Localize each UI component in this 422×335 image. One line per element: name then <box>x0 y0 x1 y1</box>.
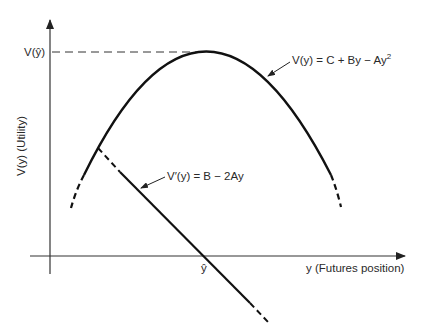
marginal-equation-label: V′(y) = B − 2Ay <box>167 170 244 182</box>
superscript: 2 <box>387 52 392 61</box>
diagram-canvas: V(ŷ) V(y) = C + By − Ay2 V′(y) = B − 2Ay… <box>0 0 422 335</box>
x-marker-label: ŷ <box>201 262 207 274</box>
y-axis-label: V(y) (Utility) <box>15 116 27 176</box>
utility-equation-label: V(y) = C + By − Ay2 <box>292 52 392 66</box>
utility-curve <box>84 52 331 176</box>
marginal-line-dashed-top <box>98 148 120 172</box>
utility-label-pointer <box>268 62 290 76</box>
utility-curve-left-dashed <box>71 175 84 208</box>
utility-curve-right-dashed <box>331 175 341 207</box>
marginal-label-pointer <box>141 177 165 188</box>
peak-value-label: V(ŷ) <box>24 46 45 58</box>
marginal-line <box>120 172 250 303</box>
marginal-line-dashed-bottom <box>250 303 268 322</box>
x-axis-label: y (Futures position) <box>306 262 405 274</box>
